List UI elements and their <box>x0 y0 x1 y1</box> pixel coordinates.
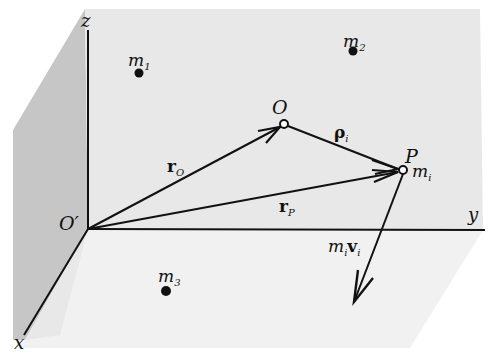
y-axis <box>88 229 485 230</box>
r-o-base: r <box>167 156 176 176</box>
mass-m3-base: m <box>158 266 174 286</box>
momentum-m-sub: i <box>344 247 347 258</box>
mass-m1-base: m <box>128 50 144 70</box>
momentum-v-sub: i <box>357 247 360 258</box>
mass-m3-sub: 3 <box>174 277 180 288</box>
momentum-label: mivi <box>328 238 360 255</box>
mass-m3-label: m3 <box>158 268 181 285</box>
mass-m2-label: m2 <box>343 33 366 50</box>
r-o-sub: O <box>176 167 184 178</box>
momentum-v-base: v <box>347 236 357 256</box>
mass-mi-sub: i <box>428 172 431 183</box>
r-p-label: rP <box>279 198 295 215</box>
mass-m1-sub: 1 <box>144 61 150 72</box>
point-o-marker <box>280 120 288 128</box>
mass-mi-base: m <box>412 161 428 181</box>
origin-label: O′ <box>59 214 79 233</box>
floor-plane <box>18 229 483 348</box>
rho-base: ρ <box>334 122 345 142</box>
mass-m2-base: m <box>343 31 359 51</box>
point-p-marker <box>399 166 407 174</box>
r-p-sub: P <box>288 207 295 218</box>
mass-m3-dot <box>161 286 171 296</box>
rho-sub: i <box>345 133 348 144</box>
y-axis-label: y <box>468 206 478 224</box>
momentum-m-base: m <box>328 236 344 256</box>
mass-m1-label: m1 <box>128 52 151 69</box>
mass-mi-label: mi <box>412 163 431 180</box>
point-o-label: O <box>272 98 288 117</box>
rho-label: ρi <box>334 124 349 141</box>
particle-system-diagram: z y x O′ O P m1 m2 m3 mi rO rP ρi mivi <box>0 0 492 361</box>
z-axis-label: z <box>81 12 90 30</box>
r-o-label: rO <box>167 158 184 175</box>
r-p-base: r <box>279 196 288 216</box>
x-axis-label: x <box>14 334 24 352</box>
mass-m2-sub: 2 <box>359 42 365 53</box>
